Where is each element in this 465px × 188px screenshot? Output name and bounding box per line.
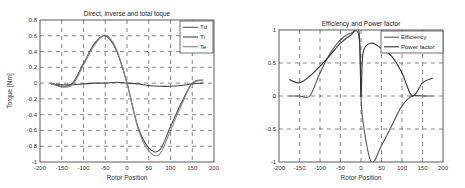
legend: EfficiencyPower factor: [381, 31, 443, 53]
y-tick-label: -0.5: [266, 126, 277, 132]
y-tick-label: 0: [34, 80, 38, 86]
y-tick-label: 1: [273, 27, 277, 33]
efficiency-chart: -200-150-100-5005010015020010.50-0.5-1Ef…: [266, 20, 449, 181]
y-tick-label: 0.8: [29, 17, 38, 23]
y-tick-label: 0.6: [29, 33, 38, 39]
x-tick-label: 100: [165, 165, 176, 171]
legend-label: Power factor: [401, 44, 435, 50]
y-tick-label: -1: [32, 159, 38, 165]
legend-label: Td: [200, 24, 207, 30]
y-tick-label: 0.5: [268, 60, 277, 66]
x-tick-label: -100: [314, 165, 327, 171]
x-axis-label: Rotor Position: [107, 174, 148, 181]
y-tick-label: -0.2: [27, 96, 38, 102]
y-tick-label: -0.8: [27, 143, 38, 149]
x-tick-label: -100: [77, 165, 90, 171]
x-tick-label: 150: [417, 165, 428, 171]
y-tick-label: -1: [271, 159, 277, 165]
chart-title: Direct, inverse and total toque: [84, 10, 171, 18]
y-axis-label: Torque [Nm]: [6, 73, 14, 109]
x-axis-label: Rotor Position: [341, 174, 382, 181]
x-tick-label: 150: [187, 165, 198, 171]
x-tick-label: -200: [273, 165, 286, 171]
figure-canvas: -200-150-100-500501001502000.80.60.40.20…: [0, 0, 465, 188]
torque-chart: -200-150-100-500501001502000.80.60.40.20…: [6, 10, 220, 181]
y-tick-label: -0.4: [27, 112, 38, 118]
y-tick-label: 0: [273, 93, 277, 99]
x-tick-label: -150: [293, 165, 306, 171]
legend-label: Efficiency: [401, 34, 427, 40]
x-tick-label: -200: [34, 165, 47, 171]
x-tick-label: -50: [101, 165, 110, 171]
legend-label: Ti: [200, 34, 205, 40]
x-tick-label: 100: [397, 165, 408, 171]
y-tick-label: 0.4: [29, 49, 38, 55]
x-tick-label: 0: [359, 165, 363, 171]
chart-title: Efficiency and Power factor: [322, 20, 401, 28]
x-tick-label: 0: [125, 165, 129, 171]
y-tick-label: 0.2: [29, 64, 38, 70]
legend-label: Te: [200, 44, 207, 50]
x-tick-label: 200: [209, 165, 220, 171]
x-tick-label: 200: [438, 165, 449, 171]
y-tick-label: -0.6: [27, 127, 38, 133]
legend: TdTiTe: [180, 21, 213, 53]
x-tick-label: -50: [336, 165, 345, 171]
x-tick-label: 50: [378, 165, 385, 171]
x-tick-label: -150: [56, 165, 69, 171]
x-tick-label: 50: [145, 165, 152, 171]
